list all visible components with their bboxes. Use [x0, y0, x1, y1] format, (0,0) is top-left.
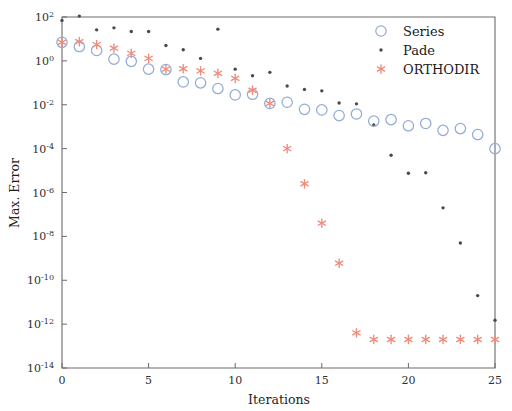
data-point-pade: [355, 102, 358, 105]
y-tick-label: 10-6: [32, 186, 54, 200]
y-axis-ticks: 10210010-210-410-610-810-1010-1210-14: [27, 10, 67, 375]
data-point-orthodir: [439, 335, 446, 343]
data-point-pade: [164, 44, 167, 47]
data-point-series: [351, 109, 361, 119]
data-point-orthodir: [232, 74, 239, 82]
data-point-pade: [251, 74, 254, 77]
data-point-orthodir: [335, 259, 342, 267]
data-point-orthodir: [318, 219, 325, 227]
x-tick-label: 25: [488, 374, 502, 387]
data-point-series: [109, 54, 119, 64]
data-point-series: [421, 118, 431, 128]
data-point-pade: [424, 171, 427, 174]
data-point-pade: [182, 48, 185, 51]
data-point-pade: [493, 319, 496, 322]
data-point-series: [178, 77, 188, 87]
data-point-series: [334, 110, 344, 120]
y-axis-label: Max. Error: [7, 158, 22, 228]
scatter-plot: 0510152025 10210010-210-410-610-810-1010…: [0, 0, 512, 411]
data-point-orthodir: [387, 335, 394, 343]
data-point-series: [376, 26, 386, 36]
data-point-pade: [389, 154, 392, 157]
data-point-orthodir: [214, 69, 221, 77]
y-tick-label: 100: [35, 54, 54, 68]
data-point-pade: [379, 48, 382, 51]
y-tick-label: 102: [35, 10, 54, 24]
data-point-orthodir: [266, 99, 273, 107]
data-point-series: [299, 104, 309, 114]
data-point-orthodir: [162, 65, 169, 73]
data-point-pade: [199, 57, 202, 60]
data-point-pade: [407, 172, 410, 175]
data-point-orthodir: [370, 335, 377, 343]
data-point-orthodir: [353, 329, 360, 337]
data-point-pade: [60, 19, 63, 22]
data-point-pade: [476, 294, 479, 297]
y-tick-label: 10-8: [32, 229, 54, 243]
x-tick-label: 0: [59, 374, 66, 387]
y-tick-label: 10-10: [27, 273, 54, 287]
data-point-pade: [234, 67, 237, 70]
data-point-series: [230, 90, 240, 100]
data-point-series: [386, 114, 396, 124]
data-point-orthodir: [405, 335, 412, 343]
data-point-series: [143, 64, 153, 74]
data-point-orthodir: [197, 67, 204, 75]
data-point-pade: [285, 84, 288, 87]
data-series-orthodir: [58, 37, 498, 343]
data-point-orthodir: [110, 44, 117, 52]
legend-label-orthodir: ORTHODIR: [403, 62, 480, 77]
y-tick-label: 10-4: [32, 142, 54, 156]
data-point-series: [403, 121, 413, 131]
data-point-series: [472, 129, 482, 139]
data-point-series: [195, 78, 205, 88]
data-point-series: [438, 125, 448, 135]
data-point-orthodir: [457, 335, 464, 343]
y-tick-label: 10-2: [32, 98, 54, 112]
data-point-orthodir: [474, 335, 481, 343]
data-point-pade: [268, 71, 271, 74]
data-point-series: [282, 97, 292, 107]
chart-figure: 0510152025 10210010-210-410-610-810-1010…: [0, 0, 512, 411]
y-tick-label: 10-12: [27, 317, 54, 331]
data-point-orthodir: [422, 335, 429, 343]
data-point-pade: [303, 88, 306, 91]
legend-label-series: Series: [403, 24, 444, 39]
data-point-pade: [147, 30, 150, 33]
x-tick-label: 20: [401, 374, 415, 387]
x-axis-ticks: 0510152025: [59, 363, 503, 387]
chart-legend: SeriesPadeORTHODIR: [376, 24, 481, 77]
legend-label-pade: Pade: [403, 43, 435, 58]
data-point-series: [213, 83, 223, 93]
data-point-orthodir: [377, 65, 384, 73]
x-tick-label: 5: [145, 374, 152, 387]
data-point-pade: [441, 206, 444, 209]
data-point-pade: [459, 241, 462, 244]
data-point-pade: [130, 30, 133, 33]
data-point-orthodir: [180, 64, 187, 72]
y-tick-label: 10-14: [27, 361, 54, 375]
data-point-series: [455, 123, 465, 133]
data-point-pade: [95, 28, 98, 31]
data-point-pade: [337, 101, 340, 104]
data-point-pade: [320, 89, 323, 92]
x-tick-label: 10: [228, 374, 242, 387]
data-point-orthodir: [284, 144, 291, 152]
data-point-pade: [78, 14, 81, 17]
data-point-orthodir: [301, 180, 308, 188]
data-point-orthodir: [93, 40, 100, 48]
data-point-pade: [216, 27, 219, 30]
data-point-orthodir: [58, 38, 65, 46]
data-point-orthodir: [491, 335, 498, 343]
data-point-orthodir: [145, 54, 152, 62]
data-point-pade: [112, 26, 115, 29]
x-tick-label: 15: [315, 374, 329, 387]
x-axis-label: Iterations: [248, 392, 310, 407]
data-point-series: [317, 105, 327, 115]
